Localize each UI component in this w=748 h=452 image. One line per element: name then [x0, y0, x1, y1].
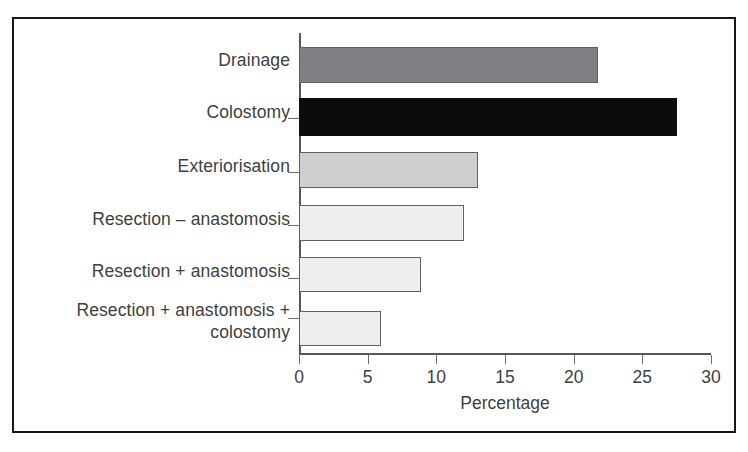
category-tick [288, 318, 299, 319]
bar-resection-minus-anastomosis[interactable] [299, 205, 464, 241]
category-tick [288, 278, 299, 279]
category-tick [288, 172, 299, 173]
figure-root: Drainage Colostomy Exteriorisation Resec… [0, 0, 748, 452]
x-tick-15 [505, 355, 506, 364]
bar-row-resection-plus-anastomosis [299, 257, 711, 292]
bar-colostomy[interactable] [299, 98, 677, 136]
category-label-exteriorisation: Exteriorisation [5, 155, 290, 177]
category-tick [288, 118, 299, 119]
category-label-resection-plus-anastomosis-plus-colostomy: Resection + anastomosis + colostomy [5, 299, 290, 343]
x-tick-20 [574, 355, 575, 364]
bar-drainage[interactable] [299, 47, 598, 83]
plot-area: 0 5 10 15 20 25 30 [299, 33, 711, 353]
bar-row-resection-plus-anastomosis-plus-colostomy [299, 311, 711, 346]
bar-exteriorisation[interactable] [299, 152, 478, 188]
x-tick-label-25: 25 [620, 366, 664, 388]
x-tick-0 [299, 355, 300, 364]
x-axis-title: Percentage [299, 392, 711, 414]
x-tick-label-30: 30 [689, 366, 733, 388]
bar-row-colostomy [299, 98, 711, 136]
bar-row-resection-minus-anastomosis [299, 205, 711, 241]
category-tick [288, 225, 299, 226]
x-tick-25 [642, 355, 643, 364]
category-label-resection-minus-anastomosis: Resection – anastomosis [5, 208, 290, 230]
x-tick-label-5: 5 [346, 366, 390, 388]
x-tick-30 [711, 355, 712, 364]
category-label-colostomy: Colostomy [5, 101, 290, 123]
bar-resection-plus-anastomosis[interactable] [299, 257, 421, 292]
x-tick-label-10: 10 [414, 366, 458, 388]
category-label-resection-plus-anastomosis: Resection + anastomosis [5, 260, 290, 282]
x-tick-5 [368, 355, 369, 364]
x-tick-label-20: 20 [552, 366, 596, 388]
x-tick-label-0: 0 [277, 366, 321, 388]
bar-resection-plus-anastomosis-plus-colostomy[interactable] [299, 311, 381, 346]
category-label-drainage: Drainage [5, 49, 290, 71]
x-tick-10 [436, 355, 437, 364]
x-tick-label-15: 15 [483, 366, 527, 388]
category-label-column: Drainage Colostomy Exteriorisation Resec… [0, 0, 290, 452]
bar-row-exteriorisation [299, 152, 711, 188]
bar-row-drainage [299, 47, 711, 83]
